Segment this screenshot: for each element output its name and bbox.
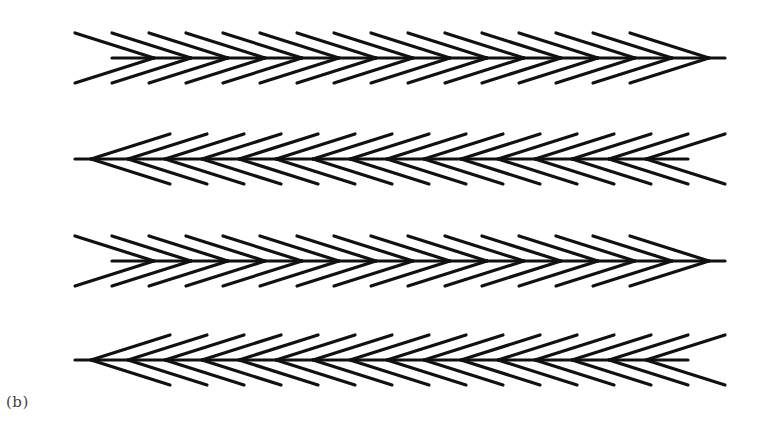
chevron-arm-upper	[112, 33, 191, 58]
chevron-arm-lower	[371, 58, 450, 83]
chevron-arm-lower	[112, 261, 191, 286]
chevron-arm-upper	[186, 33, 265, 58]
chevron-arm-lower	[223, 58, 302, 83]
chevron-arm-lower	[609, 360, 688, 385]
chevron-arm-lower	[75, 261, 154, 286]
chevron-arm-lower	[239, 360, 318, 385]
chevron-arm-lower	[498, 360, 577, 385]
chevron-arm-upper	[128, 134, 207, 159]
chevron-arm-lower	[260, 58, 339, 83]
chevron-arm-upper	[371, 236, 450, 261]
chevron-arm-lower	[519, 58, 598, 83]
chevron-arm-upper	[461, 335, 540, 360]
chevron-arm-lower	[350, 159, 429, 184]
chevron-arm-lower	[239, 159, 318, 184]
chevron-arm-upper	[165, 335, 244, 360]
chevron-arm-upper	[445, 236, 524, 261]
chevron-arm-lower	[461, 360, 540, 385]
chevron-arm-upper	[519, 236, 598, 261]
chevron-arm-lower	[149, 58, 228, 83]
chevron-arm-lower	[445, 261, 524, 286]
chevron-arm-lower	[593, 261, 672, 286]
chevron-arm-upper	[572, 335, 651, 360]
chevron-arm-upper	[535, 335, 614, 360]
chevron-arm-upper	[297, 33, 376, 58]
chevron-arm-upper	[482, 33, 561, 58]
chevron-arm-lower	[371, 261, 450, 286]
panel-label: (b)	[6, 393, 29, 411]
chevron-arm-upper	[593, 33, 672, 58]
chevron-arm-upper	[556, 236, 635, 261]
chevron-arm-lower	[535, 360, 614, 385]
chevron-rows	[75, 33, 725, 385]
chevron-arm-upper	[334, 236, 413, 261]
chevron-arm-lower	[408, 261, 487, 286]
chevron-arm-lower	[165, 159, 244, 184]
chevron-arm-upper	[91, 134, 170, 159]
chevron-arm-upper	[646, 134, 725, 159]
chevron-arm-lower	[387, 159, 466, 184]
chevron-arm-lower	[424, 159, 503, 184]
chevron-arm-lower	[556, 261, 635, 286]
chevron-arm-lower	[572, 159, 651, 184]
chevron-arm-upper	[424, 134, 503, 159]
chevron-arm-upper	[593, 236, 672, 261]
chevron-arm-upper	[260, 236, 339, 261]
chevron-arm-upper	[461, 134, 540, 159]
chevron-arm-upper	[186, 236, 265, 261]
chevron-arm-upper	[371, 33, 450, 58]
chevron-arm-upper	[223, 33, 302, 58]
chevron-arm-upper	[609, 335, 688, 360]
chevron-arm-upper	[239, 335, 318, 360]
chevron-arm-lower	[630, 261, 709, 286]
chevron-arm-upper	[276, 335, 355, 360]
chevron-arm-lower	[128, 360, 207, 385]
chevron-arm-lower	[223, 261, 302, 286]
chevron-row-4-left	[75, 335, 725, 385]
chevron-arm-upper	[408, 33, 487, 58]
chevron-arm-upper	[572, 134, 651, 159]
chevron-arm-upper	[482, 236, 561, 261]
chevron-arm-upper	[165, 134, 244, 159]
chevron-arm-lower	[350, 360, 429, 385]
chevron-arm-upper	[128, 335, 207, 360]
chevron-arm-upper	[260, 33, 339, 58]
chevron-arm-upper	[149, 33, 228, 58]
chevron-arm-lower	[91, 360, 170, 385]
chevron-arm-upper	[297, 236, 376, 261]
chevron-arm-upper	[519, 33, 598, 58]
chevron-arm-lower	[186, 58, 265, 83]
chevron-arm-upper	[630, 33, 709, 58]
chevron-arm-lower	[297, 58, 376, 83]
chevron-arm-upper	[387, 335, 466, 360]
chevron-arm-lower	[313, 360, 392, 385]
chevron-arm-upper	[202, 335, 281, 360]
chevron-arm-upper	[313, 335, 392, 360]
chevron-arm-upper	[223, 236, 302, 261]
chevron-arm-lower	[276, 360, 355, 385]
chevron-arm-lower	[297, 261, 376, 286]
chevron-arm-lower	[260, 261, 339, 286]
chevron-arm-upper	[149, 236, 228, 261]
chevron-arm-upper	[498, 335, 577, 360]
chevron-arm-upper	[535, 134, 614, 159]
chevron-arm-lower	[572, 360, 651, 385]
chevron-arm-lower	[646, 360, 725, 385]
chevron-arm-lower	[112, 58, 191, 83]
chevron-arm-lower	[334, 261, 413, 286]
chevron-arm-lower	[482, 261, 561, 286]
chevron-arm-upper	[609, 134, 688, 159]
chevron-arm-lower	[556, 58, 635, 83]
chevron-arm-upper	[498, 134, 577, 159]
chevron-arm-upper	[75, 33, 154, 58]
chevron-arm-upper	[334, 33, 413, 58]
chevron-arm-upper	[630, 236, 709, 261]
chevron-arm-lower	[186, 261, 265, 286]
chevron-arm-upper	[350, 134, 429, 159]
chevron-arm-lower	[646, 159, 725, 184]
chevron-arm-lower	[519, 261, 598, 286]
chevron-arm-lower	[408, 58, 487, 83]
chevron-arm-lower	[91, 159, 170, 184]
chevron-arm-lower	[313, 159, 392, 184]
chevron-arm-lower	[202, 159, 281, 184]
